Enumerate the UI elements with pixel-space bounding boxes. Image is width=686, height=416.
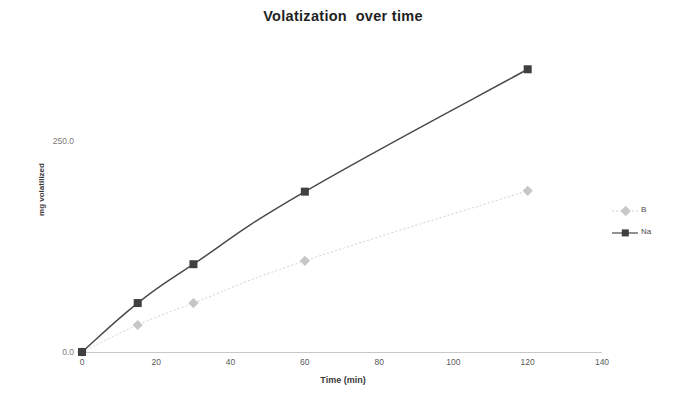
legend-label-b: B <box>638 205 646 214</box>
data-point-b[interactable] <box>523 186 533 196</box>
y-tick-label: 0.0 <box>14 347 74 357</box>
x-axis-title: Time (min) <box>0 375 686 385</box>
data-point-na[interactable] <box>134 299 142 307</box>
data-point-na[interactable] <box>524 65 532 73</box>
x-tick-label: 20 <box>136 357 176 367</box>
chart-legend: B Na <box>612 198 680 242</box>
plot-area <box>82 50 602 352</box>
x-tick-label: 140 <box>582 357 622 367</box>
data-point-na[interactable] <box>301 188 309 196</box>
legend-item-na[interactable]: Na <box>612 220 680 242</box>
data-point-na[interactable] <box>189 260 197 268</box>
x-tick-label: 40 <box>211 357 251 367</box>
x-tick-label: 80 <box>359 357 399 367</box>
x-tick-label: 120 <box>508 357 548 367</box>
data-point-b[interactable] <box>133 320 143 330</box>
data-point-na[interactable] <box>78 348 86 356</box>
x-axis-line <box>82 352 602 353</box>
x-tick-label: 0 <box>62 357 102 367</box>
legend-swatch-na <box>612 225 638 237</box>
series-line-na <box>82 69 528 352</box>
data-point-b[interactable] <box>188 298 198 308</box>
legend-item-b[interactable]: B <box>612 198 680 220</box>
legend-label-na: Na <box>638 227 651 236</box>
x-tick-label: 60 <box>285 357 325 367</box>
y-axis-title: mg volatilized <box>37 135 46 245</box>
chart-figure: Volatization over time 02040608010012014… <box>0 0 686 416</box>
series-line-b <box>82 191 528 352</box>
legend-swatch-b <box>612 203 638 215</box>
data-point-b[interactable] <box>300 256 310 266</box>
series-plot <box>82 50 602 352</box>
chart-title: Volatization over time <box>0 8 686 24</box>
x-tick-label: 100 <box>433 357 473 367</box>
